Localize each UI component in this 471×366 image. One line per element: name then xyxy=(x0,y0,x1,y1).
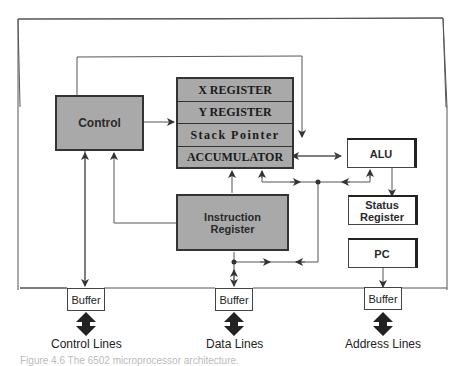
register-stack: X REGISTER Y REGISTER Stack Pointer ACCU… xyxy=(176,77,294,169)
accumulator: ACCUMULATOR xyxy=(178,147,292,167)
x-register: X REGISTER xyxy=(178,79,292,102)
pc-block: PC xyxy=(348,238,418,268)
alu-block: ALU xyxy=(347,138,417,168)
control-lines-label: Control Lines xyxy=(51,337,122,351)
status-register-block: Status Register xyxy=(348,195,418,225)
alu-label: ALU xyxy=(370,148,393,160)
figure-caption: Figure 4.6 The 6502 microprocessor archi… xyxy=(20,355,239,366)
address-buffer: Buffer xyxy=(364,287,402,310)
pc-label: PC xyxy=(374,248,389,260)
data-buffer: Buffer xyxy=(215,288,253,311)
stack-pointer: Stack Pointer xyxy=(178,124,292,147)
data-lines-label: Data Lines xyxy=(206,337,263,351)
address-lines-label: Address Lines xyxy=(345,337,421,351)
control-label: Control xyxy=(78,117,121,129)
control-buffer: Buffer xyxy=(67,288,105,311)
bus-arrows xyxy=(76,312,393,336)
instruction-register-label: Instruction Register xyxy=(198,211,267,235)
control-block: Control xyxy=(55,95,144,151)
y-register: Y REGISTER xyxy=(178,102,292,124)
status-register-label: Status Register xyxy=(355,199,409,223)
instruction-register-block: Instruction Register xyxy=(176,194,289,251)
